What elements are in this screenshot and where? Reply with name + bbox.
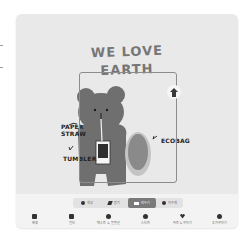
tool-label: 하트 & 꾸미기 <box>173 221 192 225</box>
square-icon <box>134 202 139 205</box>
mode-label: 색상 <box>87 201 93 205</box>
mode-label: 밝기 <box>114 201 120 205</box>
eraser-icon <box>162 201 166 205</box>
photo-canvas[interactable]: WE LOVE EARTH PAPER <box>16 14 238 194</box>
text-icon <box>106 214 111 219</box>
mode-brightness[interactable]: 밝기 <box>101 198 129 208</box>
filter-icon <box>69 214 74 219</box>
tool-label: 필터 <box>69 221 75 225</box>
rotate-handle[interactable] <box>167 85 181 99</box>
mode-border[interactable]: 테두리 <box>128 198 156 208</box>
tool-label: 추가 꾸미기 <box>212 221 228 225</box>
tool-more[interactable]: 추가 꾸미기 <box>203 214 237 225</box>
mode-eraser[interactable]: 지우개 <box>156 198 184 208</box>
bottom-toolbar: 배경 필터 텍스트 & 말풍선 스티커 하트 & 꾸미기 추가 꾸미기 <box>16 210 238 228</box>
mode-bar: 색상 밝기 테두리 지우개 <box>73 198 183 208</box>
tool-filter[interactable]: 필터 <box>55 214 89 225</box>
circle-icon <box>81 201 85 205</box>
tool-text[interactable]: 텍스트 & 말풍선 <box>92 214 126 225</box>
editor-card: WE LOVE EARTH PAPER <box>16 14 238 228</box>
tool-heart[interactable]: 하트 & 꾸미기 <box>166 214 200 225</box>
sticker-icon <box>143 214 148 219</box>
pen-icon <box>108 201 113 205</box>
heart-icon <box>180 214 185 219</box>
tool-label: 스티커 <box>141 221 150 225</box>
mode-color[interactable]: 색상 <box>73 198 101 208</box>
image-icon <box>32 214 37 219</box>
tool-label: 배경 <box>32 221 38 225</box>
edge-mark <box>0 67 3 68</box>
selection-box[interactable] <box>79 72 177 183</box>
tool-background[interactable]: 배경 <box>18 214 52 225</box>
mode-label: 테두리 <box>141 201 150 205</box>
tool-sticker[interactable]: 스티커 <box>129 214 163 225</box>
arrow-up-icon <box>170 88 178 97</box>
add-icon <box>217 214 222 219</box>
tool-label: 텍스트 & 말풍선 <box>97 221 119 225</box>
edge-mark <box>0 45 3 46</box>
mode-label: 지우개 <box>168 201 177 205</box>
